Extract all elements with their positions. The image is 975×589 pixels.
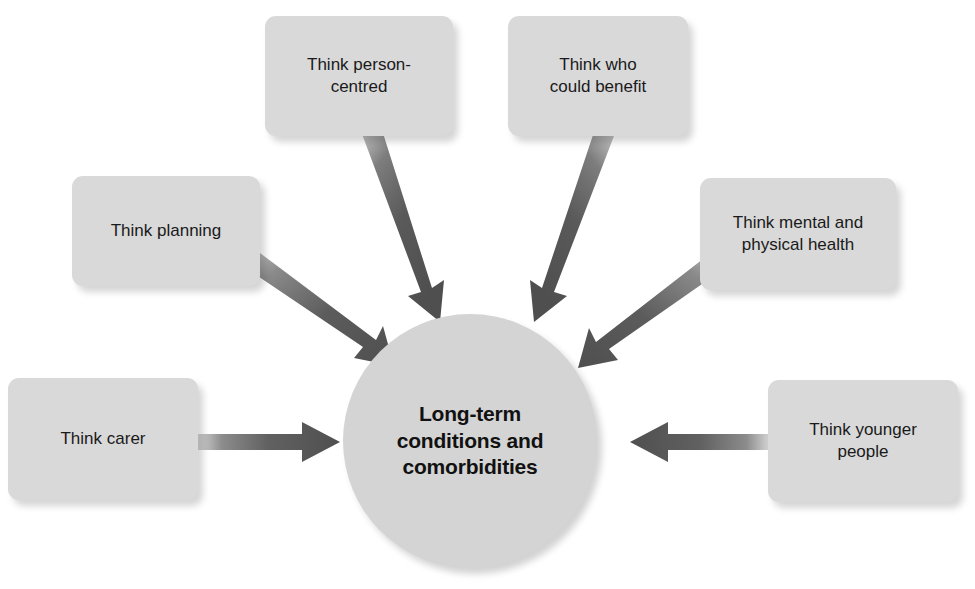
arrow-from-think-person-centred xyxy=(362,130,444,322)
node-box-think-mental-and-physical-health: Think mental and physical health xyxy=(700,178,896,290)
node-label-think-person-centred: Think person- centred xyxy=(295,54,423,98)
node-box-think-younger-people: Think younger people xyxy=(768,380,958,502)
arrow-from-think-younger-people xyxy=(630,422,772,462)
node-box-think-planning: Think planning xyxy=(72,176,260,286)
center-node-label: Long-term conditions and comorbidities xyxy=(379,401,562,482)
node-label-think-planning: Think planning xyxy=(99,220,234,242)
arrow-from-think-carer xyxy=(196,422,340,462)
diagram-canvas: Long-term conditions and comorbidities T… xyxy=(0,0,975,589)
node-label-think-carer: Think carer xyxy=(48,428,157,450)
node-label-think-who-could-benefit: Think who could benefit xyxy=(538,54,658,98)
node-box-think-person-centred: Think person- centred xyxy=(265,16,453,136)
arrow-from-think-planning xyxy=(243,250,394,366)
node-label-think-younger-people: Think younger people xyxy=(797,419,929,463)
node-label-think-mental-and-physical-health: Think mental and physical health xyxy=(721,212,875,256)
node-box-think-who-could-benefit: Think who could benefit xyxy=(508,16,688,136)
node-box-think-carer: Think carer xyxy=(8,378,198,500)
arrow-from-think-who-could-benefit xyxy=(530,132,614,322)
center-node-long-term-conditions: Long-term conditions and comorbidities xyxy=(343,314,597,568)
